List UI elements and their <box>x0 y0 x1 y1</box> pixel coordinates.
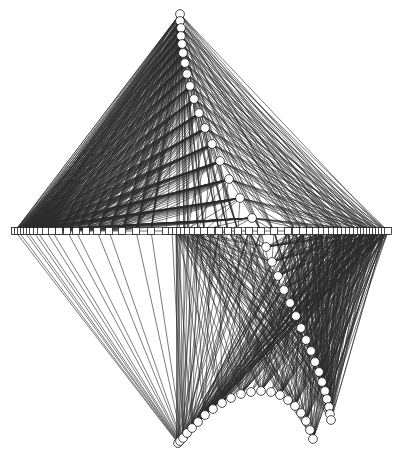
square-node[interactable] <box>385 228 392 235</box>
square-node[interactable] <box>235 228 242 235</box>
circle-node-lower[interactable] <box>302 336 311 345</box>
square-node[interactable] <box>208 228 215 235</box>
circle-node-bottom[interactable] <box>302 417 311 426</box>
square-node[interactable] <box>83 228 90 235</box>
square-node[interactable] <box>133 228 140 235</box>
circle-node-bottom[interactable] <box>201 411 210 420</box>
circle-node-upper[interactable] <box>183 70 192 79</box>
figure-root <box>0 0 399 464</box>
graph-canvas[interactable] <box>0 0 399 464</box>
circle-node-lower[interactable] <box>311 358 320 367</box>
square-node[interactable] <box>225 228 232 235</box>
circle-node-bottom[interactable] <box>257 387 266 396</box>
square-node[interactable] <box>300 228 307 235</box>
circle-node-bottom[interactable] <box>247 388 256 397</box>
circle-node-bottom[interactable] <box>291 402 300 411</box>
square-node[interactable] <box>293 228 300 235</box>
circle-node-lower[interactable] <box>292 312 301 321</box>
circle-node-upper[interactable] <box>177 24 186 33</box>
circle-node-lower[interactable] <box>268 258 277 267</box>
circle-node-upper[interactable] <box>190 95 199 104</box>
square-node[interactable] <box>64 228 71 235</box>
circle-node-lower[interactable] <box>286 299 295 308</box>
circle-node-upper[interactable] <box>236 194 245 203</box>
circle-node-lower[interactable] <box>262 243 271 252</box>
square-node[interactable] <box>216 228 223 235</box>
square-node-layer[interactable] <box>12 228 392 235</box>
circle-node-bottom[interactable] <box>306 426 315 435</box>
square-node[interactable] <box>258 228 265 235</box>
square-node[interactable] <box>119 228 126 235</box>
circle-node-bottom[interactable] <box>209 405 218 414</box>
circle-node-bottom[interactable] <box>297 409 306 418</box>
circle-node-bottom[interactable] <box>284 396 293 405</box>
circle-node-bottom[interactable] <box>218 399 227 408</box>
circle-node-upper[interactable] <box>179 49 188 58</box>
circle-node-lower[interactable] <box>318 378 327 387</box>
square-node[interactable] <box>285 228 292 235</box>
circle-node-upper[interactable] <box>201 124 210 133</box>
circle-node-lower[interactable] <box>315 368 324 377</box>
circle-node-upper[interactable] <box>186 82 195 91</box>
square-node[interactable] <box>106 228 113 235</box>
circle-node-lower[interactable] <box>274 272 283 281</box>
circle-node-upper[interactable] <box>225 175 234 184</box>
circle-node-bottom[interactable] <box>227 394 236 403</box>
square-node[interactable] <box>271 228 278 235</box>
square-node[interactable] <box>148 228 155 235</box>
circle-node-upper[interactable] <box>208 140 217 149</box>
circle-node-upper[interactable] <box>216 157 225 166</box>
circle-node-bottom[interactable] <box>194 418 203 427</box>
circle-node-lower[interactable] <box>323 395 332 404</box>
circle-node-lower[interactable] <box>327 416 336 425</box>
square-node[interactable] <box>201 228 208 235</box>
circle-node-upper[interactable] <box>248 214 257 223</box>
square-node[interactable] <box>246 228 253 235</box>
circle-node-lower[interactable] <box>321 387 330 396</box>
circle-node-upper[interactable] <box>195 109 204 118</box>
square-node[interactable] <box>73 228 80 235</box>
circle-node-lower[interactable] <box>307 347 316 356</box>
circle-node-upper[interactable] <box>178 40 187 49</box>
square-node[interactable] <box>94 228 101 235</box>
circle-node-bottom[interactable] <box>309 435 318 444</box>
circle-node-lower[interactable] <box>280 286 289 295</box>
circle-node-lower[interactable] <box>297 324 306 333</box>
circle-node-bottom[interactable] <box>276 391 285 400</box>
square-node[interactable] <box>49 228 56 235</box>
circle-node-bottom[interactable] <box>237 390 246 399</box>
circle-node-bottom[interactable] <box>267 388 276 397</box>
circle-node-upper[interactable] <box>177 32 186 41</box>
circle-node-upper[interactable] <box>181 59 190 68</box>
square-node[interactable] <box>56 228 63 235</box>
